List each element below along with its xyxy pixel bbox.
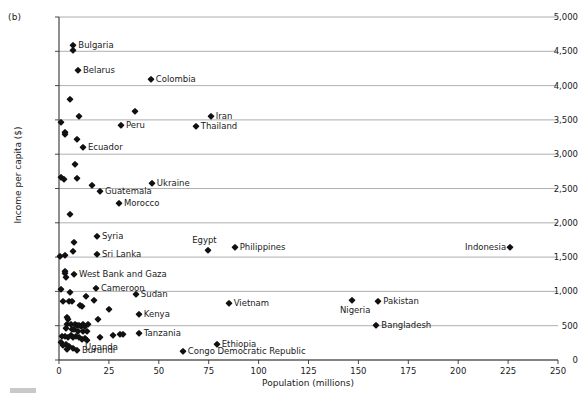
y-tick-label: 2,500 xyxy=(526,184,578,194)
y-axis-title: Income per capita ($) xyxy=(13,95,23,255)
y-tick-label: 2,000 xyxy=(526,218,578,228)
x-tick-label: 100 xyxy=(250,366,266,376)
caption-marker-bar xyxy=(10,388,36,393)
y-tick-label: 3,000 xyxy=(526,149,578,159)
x-tick-label: 150 xyxy=(350,366,366,376)
x-tick-label: 200 xyxy=(450,366,466,376)
y-tick-label: 0 xyxy=(526,355,578,365)
x-tick-label: 225 xyxy=(500,366,516,376)
y-tick-label: 4,000 xyxy=(526,81,578,91)
y-tick-label: 500 xyxy=(526,321,578,331)
x-tick-label: 25 xyxy=(103,366,114,376)
figure-panel: (b) 05001,0001,5002,0002,5003,0003,5004,… xyxy=(0,0,578,400)
x-tick-label: 75 xyxy=(203,366,214,376)
x-tick-label: 125 xyxy=(300,366,316,376)
y-tick-label: 1,500 xyxy=(526,252,578,262)
x-tick-label: 0 xyxy=(56,366,61,376)
y-tick-label: 1,000 xyxy=(526,286,578,296)
y-tick-label: 4,500 xyxy=(526,46,578,56)
y-tick-label: 5,000 xyxy=(526,12,578,22)
x-tick-label: 175 xyxy=(400,366,416,376)
y-tick-label: 3,500 xyxy=(526,115,578,125)
x-axis-title: Population (millions) xyxy=(58,378,558,388)
x-tick-label: 50 xyxy=(153,366,164,376)
x-tick-label: 250 xyxy=(550,366,566,376)
